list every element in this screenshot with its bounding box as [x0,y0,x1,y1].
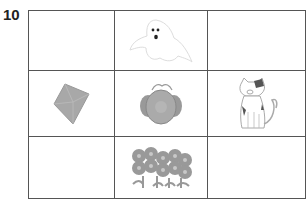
picture-grid [28,10,306,199]
diamond-icon [51,82,93,126]
ghost-icon [126,16,196,66]
grid-cell-r1c1[interactable] [29,11,115,71]
grid-cell-r3c2[interactable] [115,137,208,198]
flowers-icon [129,144,193,192]
grid-cell-r1c3[interactable] [208,11,305,71]
grid-cell-r3c3[interactable] [208,137,305,198]
grid-cell-r2c2[interactable] [115,71,208,137]
flower-pot-icon [138,80,184,128]
question-number: 10 [3,6,20,23]
grid-cell-r2c1[interactable] [29,71,115,137]
cat-icon [232,76,282,132]
grid-cell-r2c3[interactable] [208,71,305,137]
grid-cell-r3c1[interactable] [29,137,115,198]
grid-cell-r1c2[interactable] [115,11,208,71]
